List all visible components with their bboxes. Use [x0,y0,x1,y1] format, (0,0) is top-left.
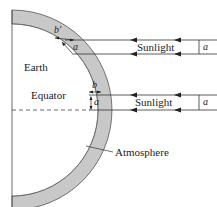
arrow-icon [174,93,181,98]
atmosphere-label: Atmosphere [115,147,169,158]
arrow-icon [130,38,137,43]
arrow-icon [174,52,181,57]
path-a-equator: a [94,97,99,107]
equator-label: Equator [31,90,66,101]
arrow-icon [174,108,181,113]
earth-label: Earth [24,62,48,73]
b-label: b [92,80,97,90]
path-a-upper: a [73,42,78,52]
arrow-icon [174,38,181,43]
b-prime-label: b′ [54,25,61,35]
diagram-canvas [0,0,217,207]
sunlight-upper-label: Sunlight [137,42,174,53]
beam-width-a-lower: a [203,97,208,107]
arrow-icon [130,52,137,57]
beam-width-a-upper: a [203,42,208,52]
arrow-icon [130,108,137,113]
sunlight-lower-label: Sunlight [135,97,172,108]
